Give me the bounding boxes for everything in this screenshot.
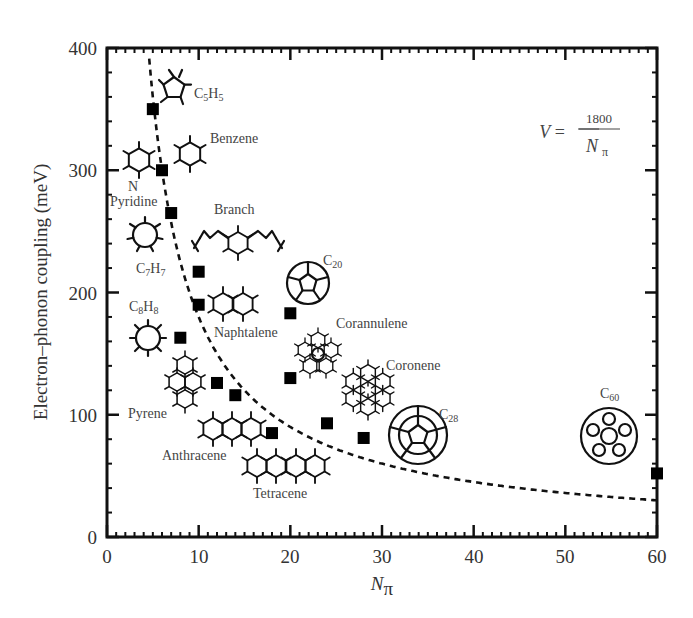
- y-tick-200: 200: [69, 283, 98, 304]
- label-pyridine: Pyridine: [110, 194, 157, 209]
- label-c20: C20: [323, 253, 342, 270]
- label-coronene: Coronene: [386, 358, 440, 373]
- label-c60: C60: [600, 386, 619, 403]
- naphtalene-structure: [208, 287, 257, 321]
- data-point-marker: [651, 467, 663, 479]
- x-tick-10: 10: [190, 546, 209, 567]
- data-point-marker: [174, 332, 186, 344]
- data-point-marker: [211, 377, 223, 389]
- c7h7-structure: [128, 217, 163, 251]
- y-tick-400: 400: [69, 38, 98, 59]
- label-n-atom: N: [128, 179, 138, 194]
- label-anthracene: Anthracene: [162, 448, 227, 463]
- data-point-marker: [284, 372, 296, 384]
- x-tick-20: 20: [281, 546, 300, 567]
- label-branch: Branch: [214, 202, 254, 217]
- y-tick-0: 0: [88, 527, 98, 548]
- pyridine-structure: [123, 142, 154, 178]
- svg-text:π: π: [602, 145, 608, 159]
- data-point-marker: [266, 427, 278, 439]
- x-tick-30: 30: [373, 546, 392, 567]
- label-c8h8: C8H8: [129, 299, 158, 316]
- x-axis-title: Nπ: [370, 573, 394, 599]
- data-point-marker: [147, 103, 159, 115]
- svg-text:1800: 1800: [586, 111, 612, 126]
- x-tick-50: 50: [556, 546, 575, 567]
- corannulene-structure: [295, 328, 342, 378]
- chart: 400 300 200 100 0 0 10 20 30 40 50 60 El…: [0, 0, 693, 618]
- x-tick-60: 60: [648, 546, 667, 567]
- data-point-marker: [321, 417, 333, 429]
- y-tick-100: 100: [69, 405, 98, 426]
- y-tick-300: 300: [69, 160, 98, 181]
- c8h8-structure: [130, 320, 166, 356]
- anthracene-structure: [198, 412, 265, 446]
- x-tick-labels: 0 10 20 30 40 50 60: [102, 546, 666, 567]
- tetracene-structure: [242, 449, 329, 483]
- pyrene-structure: [165, 351, 205, 413]
- svg-text:N: N: [585, 136, 599, 156]
- x-tick-40: 40: [465, 546, 484, 567]
- formula-annotation: V = 1800 N π: [539, 111, 620, 159]
- c20-cage: [287, 262, 329, 304]
- label-benzene: Benzene: [210, 131, 258, 146]
- data-point-marker: [284, 307, 296, 319]
- data-point-marker: [358, 432, 370, 444]
- label-pyrene: Pyrene: [128, 406, 167, 421]
- label-corannulene: Corannulene: [336, 316, 408, 331]
- data-point-marker: [156, 164, 168, 176]
- data-point-marker: [229, 389, 241, 401]
- c60-cage: [581, 408, 637, 464]
- label-naphtalene: Naphtalene: [214, 325, 278, 340]
- y-tick-labels: 400 300 200 100 0: [69, 38, 98, 548]
- y-axis-title: Electron–phonon coupling (meV): [30, 164, 52, 420]
- c5h5-structure: [159, 70, 191, 104]
- data-point-marker: [165, 207, 177, 219]
- label-c7h7: C7H7: [136, 261, 165, 278]
- benzene-structure: [174, 136, 205, 172]
- label-tetracene: Tetracene: [253, 486, 307, 501]
- svg-text:V =: V =: [539, 122, 565, 142]
- data-point-marker: [193, 266, 205, 278]
- data-point-marker: [193, 299, 205, 311]
- label-c28: C28: [439, 407, 458, 424]
- x-tick-0: 0: [102, 546, 112, 567]
- branch-structure: [192, 226, 284, 260]
- label-c5h5: C5H5: [194, 86, 223, 103]
